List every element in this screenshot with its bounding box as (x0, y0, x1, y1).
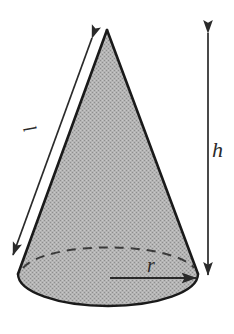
cone-drawing-canvas (0, 0, 234, 334)
cone-figure: l h r (0, 0, 234, 334)
height-label: h (212, 139, 223, 161)
radius-label: r (147, 255, 155, 275)
